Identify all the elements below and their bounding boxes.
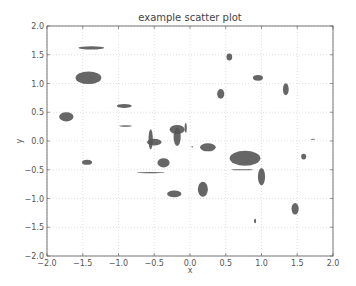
ellipse-marker	[117, 104, 132, 108]
ellipse-marker	[311, 139, 315, 140]
ellipse-marker	[147, 139, 161, 146]
ellipse-marker	[82, 160, 92, 165]
x-tick-label: 1.0	[255, 259, 268, 268]
ellipse-marker	[59, 112, 73, 121]
ellipse-marker	[137, 172, 165, 173]
x-tick-label: −0.5	[145, 259, 164, 268]
y-tick-label: 0.5	[31, 108, 44, 117]
ellipse-marker	[76, 71, 102, 84]
chart-title: example scatter plot	[138, 12, 242, 23]
y-tick-label: 2.0	[31, 22, 44, 31]
y-tick-label: −1.0	[25, 195, 44, 204]
x-tick-label: 0.5	[219, 259, 232, 268]
scatter-chart: example scatter plot −2.0−1.5−1.0−0.50.0…	[0, 0, 356, 286]
ellipse-marker	[292, 203, 299, 215]
ellipse-marker	[174, 128, 181, 146]
ellipse-marker	[283, 83, 289, 95]
ellipse-marker	[167, 190, 181, 197]
y-tick-label: 1.0	[31, 80, 44, 89]
x-axis-label: x	[188, 266, 193, 275]
ellipse-marker	[157, 158, 169, 167]
x-tick-label: 2.0	[327, 259, 340, 268]
ellipse-marker	[231, 169, 253, 170]
y-tick-label: 0.0	[31, 137, 44, 146]
ellipse-marker	[258, 168, 265, 185]
x-tick-label: −1.5	[73, 259, 92, 268]
ellipse-marker	[191, 146, 192, 148]
ellipse-marker	[226, 54, 232, 61]
ellipse-marker	[230, 151, 261, 166]
y-tick-label: −2.0	[25, 252, 44, 261]
ellipse-marker	[78, 46, 104, 49]
ellipse-marker	[119, 125, 132, 126]
y-tick-label: 1.5	[31, 51, 44, 60]
x-tick-label: −1.0	[109, 259, 128, 268]
ellipse-marker	[253, 75, 263, 81]
ellipse-marker	[217, 89, 224, 99]
ellipse-markers	[59, 46, 315, 223]
ellipse-marker	[200, 143, 216, 151]
y-tick-labels: 2.01.51.00.50.0−0.5−1.0−1.5−2.0	[25, 22, 44, 261]
ellipse-marker	[254, 219, 256, 224]
grid-lines	[47, 26, 333, 256]
y-tick-label: −1.5	[25, 223, 44, 232]
y-axis-label: y	[15, 138, 24, 143]
ellipse-marker	[185, 123, 187, 133]
ellipse-marker	[301, 154, 306, 160]
y-tick-label: −0.5	[25, 166, 44, 175]
ellipse-marker	[198, 182, 208, 197]
x-tick-label: 1.5	[291, 259, 304, 268]
